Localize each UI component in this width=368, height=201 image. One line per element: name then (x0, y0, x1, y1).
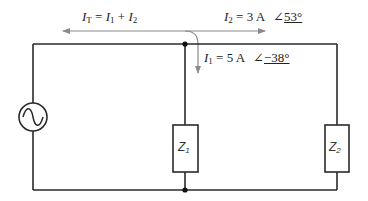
junction-top (182, 41, 187, 46)
total-current-label: IT = I1 + I2 (82, 10, 137, 23)
z2-label: Z2 (329, 140, 341, 154)
i2-label: I2 = 3 A∠53° (224, 10, 302, 23)
z1-label: Z1 (178, 140, 190, 154)
i1-angle: ∠−38° (253, 51, 289, 64)
i2-angle: ∠53° (273, 10, 302, 23)
angle-icon: ∠ (273, 9, 284, 24)
angle-icon: ∠ (253, 50, 264, 65)
junction-bottom (182, 187, 187, 192)
i1-label: I1 = 5 A∠−38° (204, 51, 290, 64)
i1-current-arrow (185, 31, 198, 73)
ac-source (19, 103, 47, 131)
circuit-diagram (0, 0, 368, 201)
